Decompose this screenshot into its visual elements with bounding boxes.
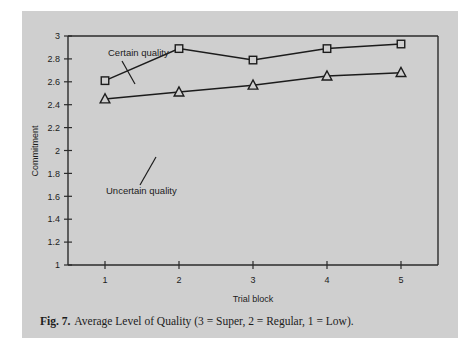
figure-panel: 11.21.41.61.822.22.42.62.83 12345 Certai…	[22, 11, 458, 338]
y-tick-label: 2.4	[47, 100, 60, 110]
line-chart: 11.21.41.61.822.22.42.62.83 12345 Certai…	[22, 11, 458, 311]
y-tick-label: 2.6	[47, 77, 60, 87]
y-tick-label: 1.4	[47, 214, 60, 224]
data-point-square	[323, 45, 331, 53]
figure-caption: Fig. 7.Average Level of Quality (3 = Sup…	[40, 315, 448, 329]
y-axis-title: Commitment	[30, 125, 40, 177]
leader-line-uncertain	[140, 157, 156, 185]
data-point-square	[249, 56, 257, 64]
x-tick-label: 1	[102, 275, 107, 285]
data-point-square	[397, 40, 405, 48]
y-tick-label: 1.2	[47, 237, 60, 247]
y-tick-label: 1.8	[47, 169, 60, 179]
x-tick-label: 3	[250, 275, 255, 285]
chart-plot-area: 11.21.41.61.822.22.42.62.83 12345 Certai…	[22, 11, 458, 311]
figure-caption-text: Average Level of Quality (3 = Super, 2 =…	[74, 315, 353, 327]
x-tick-label: 4	[324, 275, 329, 285]
annotation-label-certain: Certain quality	[108, 47, 169, 58]
figure-number: Fig. 7.	[40, 315, 70, 327]
y-tick-label: 2.8	[47, 54, 60, 64]
annotation-uncertain-quality: Uncertain quality	[106, 157, 177, 196]
annotation-label-uncertain: Uncertain quality	[106, 185, 177, 196]
y-tick-label: 3	[55, 31, 60, 41]
figure-root: 11.21.41.61.822.22.42.62.83 12345 Certai…	[0, 0, 475, 351]
y-tick-label: 1.6	[47, 192, 60, 202]
y-tick-label: 1	[55, 260, 60, 270]
x-tick-label: 5	[398, 275, 403, 285]
data-point-square	[101, 77, 109, 85]
series-uncertain-quality	[100, 67, 406, 102]
chart-axes	[68, 36, 438, 265]
y-tick-label: 2.2	[47, 123, 60, 133]
x-axis-title: Trial block	[233, 294, 274, 304]
data-point-triangle	[396, 67, 406, 76]
x-tick-label: 2	[176, 275, 181, 285]
y-tick-label: 2	[55, 146, 60, 156]
data-point-square	[175, 45, 183, 53]
